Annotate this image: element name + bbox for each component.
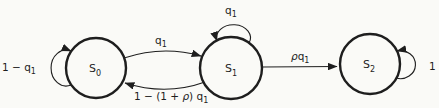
- transition-label-s1-to-s0: 1 − (1 + ρ) q1: [134, 90, 208, 105]
- transition-s1-to-s0: [125, 82, 205, 89]
- transition-label-s1-to-s2: ρq1: [291, 50, 309, 65]
- transition-label-s0-self: 1 − q1: [2, 61, 36, 76]
- transition-label-s2-self: 1: [429, 60, 436, 72]
- transition-label-s1-self: q1: [225, 4, 237, 19]
- transition-s1-to-s2: [262, 67, 337, 68]
- transition-s0-to-s1: [124, 51, 201, 58]
- state-s0-circle: [66, 38, 126, 98]
- state-s2-circle: [340, 34, 400, 94]
- state-diagram: S0 S1 S2 1 − q1 q1 1 − (1 + ρ) q1 q1 ρq1…: [0, 0, 439, 108]
- transition-label-s0-to-s1: q1: [155, 34, 167, 49]
